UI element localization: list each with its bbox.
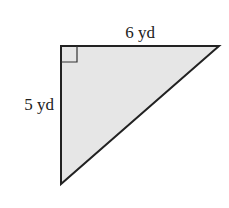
- right-triangle: [61, 46, 219, 184]
- top-side-label: 6 yd: [125, 23, 155, 42]
- left-side-label: 5 yd: [24, 95, 54, 114]
- triangle-diagram: 6 yd 5 yd: [0, 0, 229, 208]
